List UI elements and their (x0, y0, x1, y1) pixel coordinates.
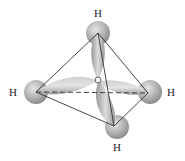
hydrogen-label-left: H (9, 86, 17, 98)
methane-diagram (0, 0, 185, 161)
hydrogen-label-top: H (94, 7, 102, 19)
hydrogen-label-bottom: H (113, 141, 121, 153)
hydrogen-label-right: H (167, 86, 175, 98)
